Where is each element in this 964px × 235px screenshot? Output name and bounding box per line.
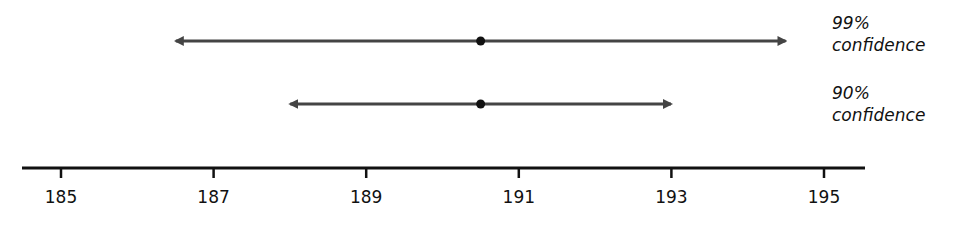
- point-estimate-dot: [476, 37, 485, 46]
- confidence-interval-chart: 185187189191193195: [0, 0, 964, 235]
- tick-label: 195: [808, 187, 840, 207]
- interval-90: [290, 100, 671, 109]
- tick-label: 187: [197, 187, 229, 207]
- label-99-confidence: 99% confidence: [832, 12, 925, 56]
- tick-label: 189: [350, 187, 382, 207]
- label-90-text: confidence: [832, 104, 925, 126]
- intervals-group: [176, 37, 786, 109]
- point-estimate-dot: [476, 100, 485, 109]
- tick-label: 193: [655, 187, 687, 207]
- label-90-confidence: 90% confidence: [832, 82, 925, 126]
- interval-99: [176, 37, 786, 46]
- x-axis-ticks: 185187189191193195: [45, 168, 840, 207]
- label-90-level: 90%: [832, 82, 925, 104]
- label-99-level: 99%: [832, 12, 925, 34]
- label-99-text: confidence: [832, 34, 925, 56]
- tick-label: 191: [503, 187, 535, 207]
- tick-label: 185: [45, 187, 77, 207]
